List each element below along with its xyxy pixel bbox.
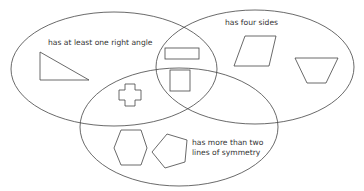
cross-shape: [119, 84, 141, 106]
hexagon-shape: [114, 130, 147, 165]
venn-diagram: has at least one right angle has four si…: [0, 0, 364, 191]
label-symmetry-line1: has more than two: [192, 138, 264, 147]
set-right-angle-ellipse: [11, 12, 217, 126]
label-right-angle: has at least one right angle: [48, 38, 153, 47]
label-four-sides: has four sides: [225, 18, 278, 27]
square-shape: [170, 70, 190, 91]
rectangle-shape: [165, 48, 199, 59]
set-symmetry-ellipse: [80, 68, 278, 186]
parallelogram-shape: [234, 36, 276, 66]
trapezium-shape: [295, 58, 338, 83]
right-triangle-shape: [40, 52, 89, 80]
set-four-sides-ellipse: [156, 10, 354, 124]
label-symmetry-line2: lines of symmetry: [192, 148, 261, 157]
pentagon-shape: [152, 134, 187, 168]
